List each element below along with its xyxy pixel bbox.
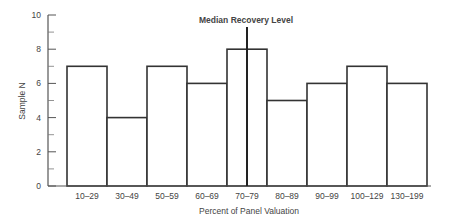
x-tick-label: 50–59 bbox=[155, 191, 179, 201]
y-tick-label: 8 bbox=[36, 44, 41, 54]
x-tick-label: 10–29 bbox=[75, 191, 99, 201]
y-tick-label: 4 bbox=[36, 113, 41, 123]
y-tick-label: 2 bbox=[36, 147, 41, 157]
bar-130–199 bbox=[387, 83, 427, 186]
x-tick-label: 60–69 bbox=[195, 191, 219, 201]
x-tick-label: 70–79 bbox=[235, 191, 259, 201]
bar-50–59 bbox=[147, 66, 187, 186]
histogram-chart: 0246810 10–2930–4950–5960–6970–7980–8990… bbox=[0, 0, 451, 220]
x-tick-label: 90–99 bbox=[315, 191, 339, 201]
x-tick-label: 80–89 bbox=[275, 191, 299, 201]
y-tick-label: 6 bbox=[36, 78, 41, 88]
bar-60–69 bbox=[187, 83, 227, 186]
x-tick-label: 30–49 bbox=[115, 191, 139, 201]
x-tick-label: 100–129 bbox=[350, 191, 383, 201]
bar-10–29 bbox=[67, 66, 107, 186]
x-tick-label: 130–199 bbox=[390, 191, 423, 201]
y-tick-label: 10 bbox=[32, 10, 42, 20]
bar-30–49 bbox=[107, 118, 147, 186]
bar-100–129 bbox=[347, 66, 387, 186]
y-axis-label: Sample N bbox=[17, 82, 27, 119]
x-axis: 10–2930–4950–5960–6970–7980–8990–99100–1… bbox=[48, 186, 431, 201]
bar-80–89 bbox=[267, 101, 307, 187]
y-axis: 0246810 bbox=[32, 10, 56, 191]
x-axis-label: Percent of Panel Valuation bbox=[199, 206, 299, 216]
bar-90–99 bbox=[307, 83, 347, 186]
median-recovery-label: Median Recovery Level bbox=[199, 15, 293, 25]
y-tick-label: 0 bbox=[36, 181, 41, 191]
